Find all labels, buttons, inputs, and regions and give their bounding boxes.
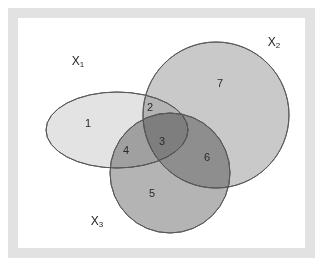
- region-label-7: 7: [217, 77, 223, 89]
- region-label-4: 4: [123, 144, 129, 156]
- set-label-x1: X1: [72, 54, 85, 69]
- region-label-2: 2: [147, 101, 153, 113]
- region-label-5: 5: [149, 187, 155, 199]
- set-label-x1-base: X: [72, 54, 80, 68]
- set-label-x2-base: X: [268, 35, 276, 49]
- venn-diagram-figure: 1 2 3 4 5 6 7 X1 X2 X3: [0, 0, 331, 274]
- region-label-3: 3: [159, 135, 165, 147]
- region-label-1: 1: [85, 117, 91, 129]
- venn-diagram-canvas: 1 2 3 4 5 6 7 X1 X2 X3: [0, 0, 331, 274]
- set-label-x3-base: X: [91, 214, 99, 228]
- set-label-x1-subscript: 1: [80, 60, 85, 69]
- set-shape-x3[interactable]: [110, 113, 230, 233]
- region-label-6: 6: [204, 151, 210, 163]
- set-shapes-group: [46, 42, 289, 233]
- set-label-x2: X2: [268, 35, 281, 50]
- set-label-x3: X3: [91, 214, 104, 229]
- set-label-x2-subscript: 2: [276, 41, 281, 50]
- set-label-x3-subscript: 3: [99, 220, 104, 229]
